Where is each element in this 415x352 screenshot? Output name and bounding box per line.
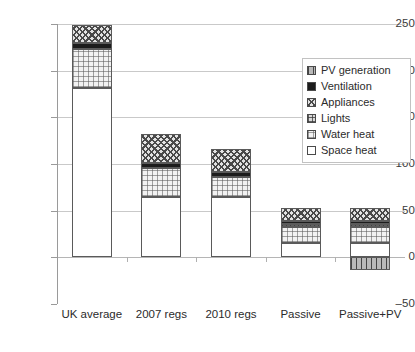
legend-swatch-icon bbox=[307, 130, 316, 139]
bar-stack[interactable] bbox=[211, 24, 251, 304]
legend-swatch-icon bbox=[307, 66, 316, 75]
bar-segment[interactable] bbox=[211, 172, 251, 177]
legend-item-label: Ventilation bbox=[321, 81, 372, 92]
bar-segment[interactable] bbox=[350, 257, 390, 270]
bar-group bbox=[196, 24, 266, 304]
x-tick-mark bbox=[127, 257, 128, 262]
legend-item-label: Appliances bbox=[321, 97, 375, 108]
bar-segment[interactable] bbox=[211, 197, 251, 258]
bar-segment[interactable] bbox=[72, 49, 112, 88]
bar-segment[interactable] bbox=[141, 134, 181, 163]
x-tick-mark bbox=[196, 257, 197, 262]
x-tick-label: UK average bbox=[57, 308, 127, 321]
x-tick-label: 2007 regs bbox=[127, 308, 197, 321]
bar-group bbox=[127, 24, 197, 304]
legend-item-label: Water heat bbox=[321, 129, 374, 140]
x-tick-label: 2010 regs bbox=[196, 308, 266, 321]
bar-segment[interactable] bbox=[141, 163, 181, 168]
bar-segment[interactable] bbox=[72, 43, 112, 50]
bar-segment[interactable] bbox=[350, 243, 390, 257]
bar-segment[interactable] bbox=[141, 168, 181, 197]
bar-segment[interactable] bbox=[211, 177, 251, 197]
legend-item[interactable]: Appliances bbox=[307, 94, 406, 110]
legend-item[interactable]: Lights bbox=[307, 110, 406, 126]
legend-swatch-icon bbox=[307, 98, 316, 107]
stacked-bar-chart: –50050100150200250 UK average2007 regs20… bbox=[0, 0, 415, 352]
legend-item[interactable]: Ventilation bbox=[307, 78, 406, 94]
bar-stack[interactable] bbox=[141, 24, 181, 304]
x-tick-label: Passive bbox=[266, 308, 336, 321]
bar-segment[interactable] bbox=[211, 149, 251, 172]
bar-segment[interactable] bbox=[281, 227, 321, 243]
x-tick-mark bbox=[335, 257, 336, 262]
x-tick-label: Passive+PV bbox=[335, 308, 405, 321]
bar-segment[interactable] bbox=[72, 88, 112, 257]
legend-item[interactable]: Water heat bbox=[307, 126, 406, 142]
legend-item-label: PV generation bbox=[321, 65, 391, 76]
legend-item[interactable]: PV generation bbox=[307, 62, 406, 78]
bar-segment[interactable] bbox=[281, 243, 321, 257]
bar-segment[interactable] bbox=[350, 221, 390, 224]
legend-swatch-icon bbox=[307, 114, 316, 123]
bar-segment[interactable] bbox=[350, 224, 390, 228]
bar-segment[interactable] bbox=[281, 221, 321, 224]
bar-group bbox=[57, 24, 127, 304]
bar-stack[interactable] bbox=[72, 24, 112, 304]
legend: PV generationVentilationAppliancesLights… bbox=[302, 58, 411, 163]
bar-segment[interactable] bbox=[281, 224, 321, 228]
legend-swatch-icon bbox=[307, 82, 316, 91]
bar-segment[interactable] bbox=[350, 227, 390, 243]
bar-segment[interactable] bbox=[141, 197, 181, 258]
bar-segment[interactable] bbox=[72, 25, 112, 43]
legend-item[interactable]: Space heat bbox=[307, 142, 406, 158]
bar-segment[interactable] bbox=[281, 208, 321, 221]
bar-segment[interactable] bbox=[350, 208, 390, 221]
legend-item-label: Space heat bbox=[321, 145, 377, 156]
legend-item-label: Lights bbox=[321, 113, 350, 124]
legend-swatch-icon bbox=[307, 146, 316, 155]
x-tick-mark bbox=[266, 257, 267, 262]
y-tick-mark bbox=[51, 304, 57, 305]
